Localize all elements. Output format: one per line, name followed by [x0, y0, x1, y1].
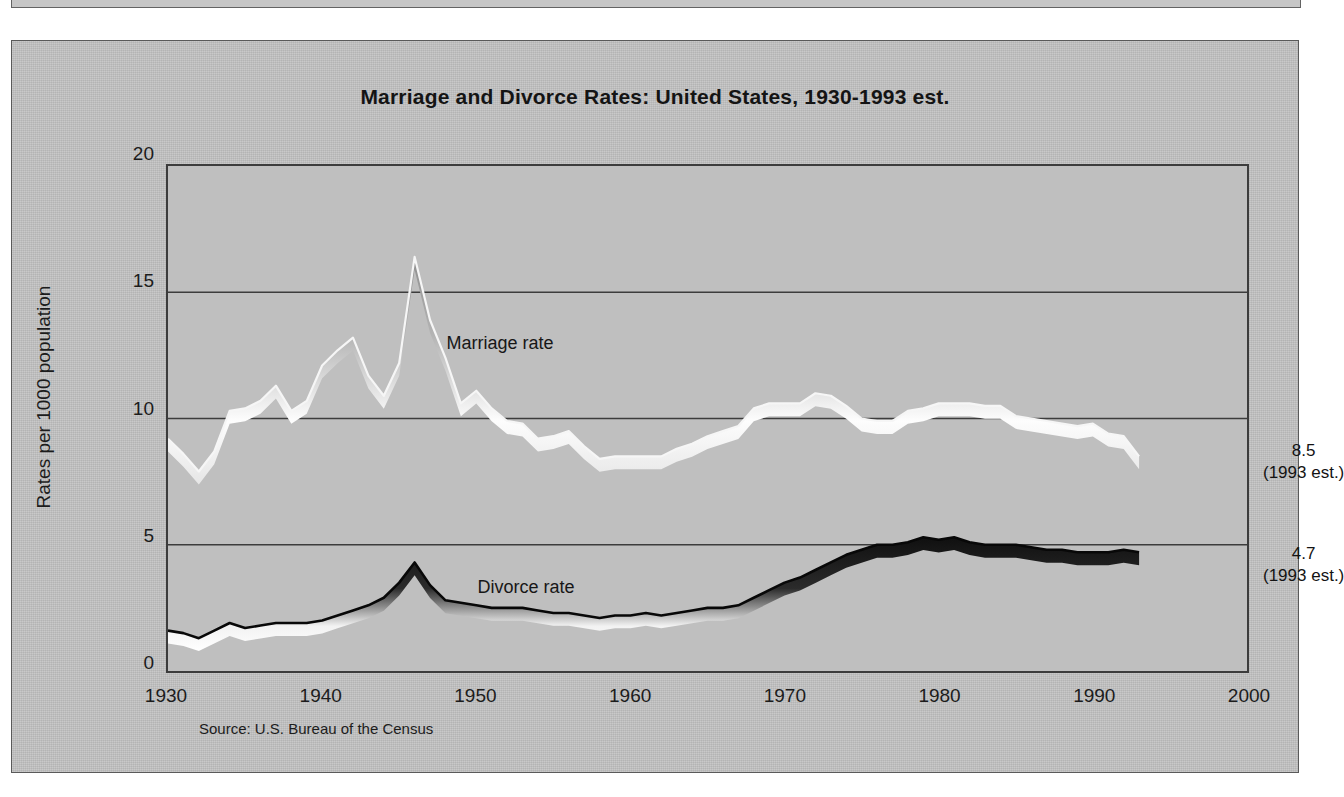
x-tick-label: 1990 — [1049, 685, 1139, 707]
plot-area: Marriage rate Divorce rate — [166, 164, 1249, 673]
y-tick-label: 5 — [80, 525, 154, 547]
chart-title: Marriage and Divorce Rates: United State… — [12, 85, 1298, 109]
x-tick-label: 1970 — [740, 685, 830, 707]
y-tick-label: 10 — [80, 398, 154, 420]
y-tick-label: 15 — [80, 270, 154, 292]
marriage-end-year: (1993 est.) — [1263, 462, 1344, 484]
x-tick-label: 1950 — [430, 685, 520, 707]
x-tick-label: 1980 — [895, 685, 985, 707]
y-tick-label: 0 — [80, 652, 154, 674]
divorce-end-value: 4.7 — [1263, 543, 1344, 565]
ribbon-edge-marriage — [168, 257, 1139, 472]
x-tick-label: 1940 — [276, 685, 366, 707]
source-note: Source: U.S. Bureau of the Census — [199, 720, 433, 737]
marriage-end-annotation: 8.5 (1993 est.) — [1263, 440, 1344, 484]
ribbon-body-marriage — [168, 257, 1139, 485]
series-label-divorce: Divorce rate — [477, 577, 574, 598]
chart-figure: Marriage and Divorce Rates: United State… — [11, 40, 1299, 773]
data-ribbons — [168, 257, 1139, 651]
marriage-end-value: 8.5 — [1263, 440, 1344, 462]
x-tick-label: 1960 — [585, 685, 675, 707]
divorce-end-year: (1993 est.) — [1263, 565, 1344, 587]
x-tick-label: 1930 — [121, 685, 211, 707]
y-tick-label: 20 — [80, 143, 154, 165]
divorce-end-annotation: 4.7 (1993 est.) — [1263, 543, 1344, 587]
previous-figure-strip — [11, 0, 1301, 8]
x-tick-label: 2000 — [1204, 685, 1294, 707]
plot-canvas — [168, 166, 1247, 671]
y-axis-label: Rates per 1000 population — [33, 217, 55, 577]
series-label-marriage: Marriage rate — [446, 333, 553, 354]
ribbon-body-divorce — [168, 537, 1139, 651]
